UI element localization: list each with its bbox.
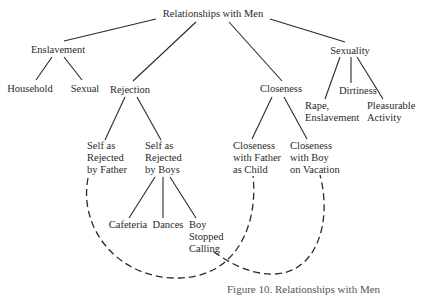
edge-root-sexuality [270, 19, 345, 42]
node-sexual: Sexual [71, 83, 100, 95]
node-rape-line1: Rape, [305, 100, 359, 112]
node-cfc-line3: as Child [233, 164, 281, 176]
node-closeness: Closeness [260, 83, 302, 95]
node-cafeteria: Cafeteria [109, 219, 147, 231]
node-srf-line2: Rejected [87, 152, 127, 164]
node-bsc-line2: Stopped [189, 231, 223, 243]
node-sexuality: Sexuality [330, 45, 370, 57]
node-cfc-line1: Closeness [233, 140, 281, 152]
edge-root-enslavement [64, 19, 156, 41]
edge-root-closeness [229, 22, 282, 81]
node-dirtiness: Dirtiness [339, 85, 377, 97]
edge-root-rejection [133, 22, 196, 81]
figure-caption: Figure 10. Relationships with Men [227, 283, 380, 295]
node-srf-line3: by Father [87, 164, 127, 176]
node-rape-line2: Enslavement [305, 112, 359, 124]
node-closeness-boy-vacation: Closeness with Boy on Vacation [290, 140, 340, 176]
node-cbv-line3: on Vacation [290, 164, 340, 176]
node-pleasurable-line1: Pleasurable [367, 100, 415, 112]
node-cbv-line2: with Boy [290, 152, 340, 164]
node-bsc-line1: Boy [189, 219, 223, 231]
node-rape-enslavement: Rape, Enslavement [305, 100, 359, 124]
node-bsc-line3: Calling [189, 243, 223, 255]
node-boy-stopped-calling: Boy Stopped Calling [189, 219, 223, 255]
node-srf-line1: Self as [87, 140, 127, 152]
node-closeness-father-child: Closeness with Father as Child [233, 140, 281, 176]
node-cfc-line2: with Father [233, 152, 281, 164]
node-root: Relationships with Men [163, 8, 263, 20]
node-enslavement: Enslavement [31, 44, 85, 56]
node-srb-line3: by Boys [145, 164, 182, 176]
node-dances: Dances [153, 219, 184, 231]
node-self-rejected-by-boys: Self as Rejected by Boys [145, 140, 182, 176]
node-self-rejected-by-father: Self as Rejected by Father [87, 140, 127, 176]
node-pleasurable-line2: Activity [367, 112, 415, 124]
node-rejection: Rejection [110, 84, 150, 96]
node-srb-line1: Self as [145, 140, 182, 152]
dashed-connector-boy [214, 175, 324, 274]
node-pleasurable-activity: Pleasurable Activity [367, 100, 415, 124]
node-srb-line2: Rejected [145, 152, 182, 164]
node-cbv-line1: Closeness [290, 140, 340, 152]
node-household: Household [7, 83, 53, 95]
